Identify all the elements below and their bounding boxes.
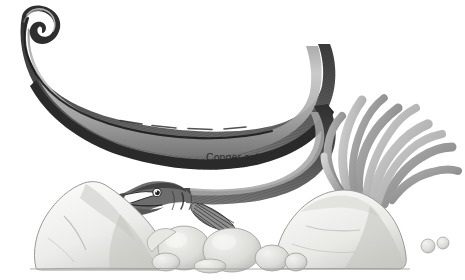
- illustration-canvas: Conger eel: [0, 0, 465, 280]
- pebble-highlight: [212, 234, 236, 250]
- small-pebble: [421, 239, 435, 253]
- small-pebble: [437, 237, 449, 249]
- conger-eel-illustration: [0, 0, 465, 280]
- eel-eye-highlight: [155, 191, 157, 193]
- pebble: [255, 245, 289, 271]
- eel-pectoral-fin: [191, 203, 235, 232]
- pebble: [194, 259, 226, 273]
- caption-conger-eel: Conger eel: [206, 151, 258, 164]
